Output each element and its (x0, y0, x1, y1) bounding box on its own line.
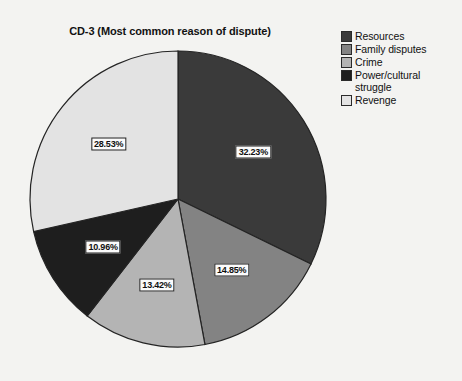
pie-slice-value-label: 13.42% (139, 279, 174, 292)
legend-swatch-icon (341, 57, 352, 68)
pie-svg (24, 40, 334, 360)
legend-item[interactable]: Revenge (341, 94, 459, 106)
legend-item-label: Crime (355, 56, 383, 68)
pie-plot-area: 32.23%14.85%13.42%10.96%28.53% (24, 40, 334, 360)
legend-item[interactable]: Resources (341, 30, 459, 42)
pie-slice-value-label: 10.96% (85, 240, 120, 253)
legend-item[interactable]: Family disputes (341, 43, 459, 55)
legend-swatch-icon (341, 95, 352, 106)
legend-swatch-icon (341, 44, 352, 55)
chart-legend: ResourcesFamily disputesCrimePower/cultu… (341, 30, 459, 107)
legend-swatch-icon (341, 70, 352, 81)
pie-slice-value-label: 14.85% (214, 263, 249, 276)
legend-swatch-icon (341, 31, 352, 42)
pie-chart-figure: CD-3 (Most common reason of dispute) 32.… (0, 0, 462, 381)
pie-slice-value-label: 32.23% (236, 146, 271, 159)
legend-item-label: Family disputes (355, 43, 426, 55)
legend-item-label: Revenge (355, 94, 396, 106)
legend-item-label: Power/cultural struggle (355, 69, 459, 93)
legend-item[interactable]: Power/cultural struggle (341, 69, 459, 93)
legend-item-label: Resources (355, 30, 404, 42)
legend-item[interactable]: Crime (341, 56, 459, 68)
pie-slice-value-label: 28.53% (91, 137, 126, 150)
pie-slice-group (30, 51, 326, 347)
chart-title: CD-3 (Most common reason of dispute) (0, 25, 340, 37)
